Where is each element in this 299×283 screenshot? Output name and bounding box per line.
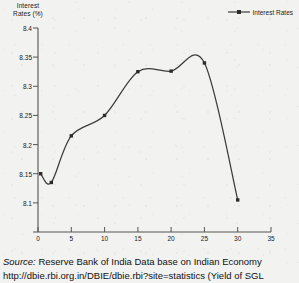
data-point-marker — [103, 114, 106, 117]
y-axis-ticks — [33, 28, 38, 232]
data-point-marker — [236, 198, 239, 201]
source-url: http://dbie.rbi.org.in/DBIE/dbie.rbi?sit… — [3, 269, 295, 283]
series-markers-interest-rates — [39, 61, 239, 201]
series-line-interest-rates — [41, 55, 238, 200]
line-chart: InterestRates (%) Interest Rates 8.4 8.3… — [0, 0, 299, 252]
data-point-marker — [39, 172, 42, 175]
source-note: Source: Reserve Bank of India Data base … — [3, 255, 295, 282]
data-point-marker — [203, 61, 206, 64]
x-axis-ticks — [38, 227, 271, 232]
data-point-marker — [70, 134, 73, 137]
data-point-marker — [50, 181, 53, 184]
plot-canvas — [0, 0, 299, 252]
data-point-marker — [169, 69, 172, 72]
data-point-marker — [136, 70, 139, 73]
chart-page: InterestRates (%) Interest Rates 8.4 8.3… — [0, 0, 299, 283]
source-keyword: Source: — [3, 256, 36, 267]
source-text: Reserve Bank of India Data base on India… — [36, 256, 262, 267]
